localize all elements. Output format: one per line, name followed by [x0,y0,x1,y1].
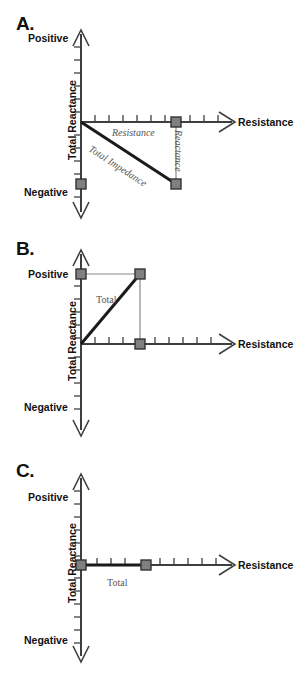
panel-b-negative-label: Negative [24,401,68,413]
panel-a-reactance-annotation: Reactance [173,130,184,172]
panel-c: C. [0,448,308,673]
panel-c-y-axis-label: Total Reactance [66,523,78,603]
x-axis-ticks [95,115,218,122]
panel-a-x-axis-label: Resistance [238,116,293,128]
panel-a-positive-label: Positive [28,32,68,44]
marker-positive-reactance [76,269,86,279]
impedance-figure: A. [0,0,308,673]
marker-resistance-endpoint [135,339,145,349]
marker-resistance-endpoint [171,117,181,127]
x-axis-ticks [95,337,211,344]
marker-negative-reactance [76,179,86,189]
total-vector-line [81,274,140,344]
panel-a: A. [0,0,308,228]
marker-impedance-endpoint [171,179,181,189]
panel-b-y-axis-label: Total Reactance [66,301,78,381]
panel-a-resistance-annotation: Resistance [112,127,155,138]
panel-c-positive-label: Positive [28,491,68,503]
panel-c-x-axis-label: Resistance [238,559,293,571]
panel-b-x-axis-label: Resistance [238,338,293,350]
panel-b: B. [0,228,308,448]
panel-c-total-annotation: Total [107,577,127,588]
marker-total-endpoint [135,269,145,279]
panel-c-negative-label: Negative [24,634,68,646]
panel-a-y-axis-label: Total Reactance [66,80,78,160]
panel-b-positive-label: Positive [28,268,68,280]
panel-a-negative-label: Negative [24,186,68,198]
marker-total-endpoint [141,560,151,570]
panel-b-total-annotation: Total [96,294,116,305]
